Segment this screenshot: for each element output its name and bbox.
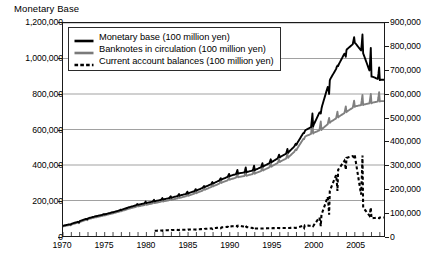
right-axis-tick-label: 200,000 — [390, 184, 421, 194]
right-axis-tickmark — [385, 118, 389, 119]
series-banknotes-in-circulation — [63, 92, 384, 226]
x-axis-tick-label: 2000 — [304, 240, 323, 250]
right-axis-tickmark — [385, 237, 389, 238]
x-axis-tick-label: 1970 — [53, 240, 72, 250]
right-axis-tick-label: 600,000 — [390, 89, 421, 99]
right-axis-tick-label: 500,000 — [390, 113, 421, 123]
right-axis-tick-label: 400,000 — [390, 136, 421, 146]
right-axis-tickmark — [385, 70, 389, 71]
right-axis-tickmark — [385, 213, 389, 214]
legend-swatch-icon — [74, 44, 94, 54]
right-axis-tick-label: 100,000 — [390, 208, 421, 218]
legend-item-label: Current account balances (100 million ye… — [99, 56, 274, 66]
legend-item: Monetary base (100 million yen) — [74, 31, 274, 43]
x-axis-tick-label: 1980 — [136, 240, 155, 250]
chart-title: Monetary Base — [14, 3, 79, 14]
x-axis-tick-label: 1985 — [178, 240, 197, 250]
right-axis-tickmark — [385, 141, 389, 142]
chart-legend: Monetary base (100 million yen)Banknotes… — [68, 27, 281, 71]
legend-swatch-icon — [74, 32, 94, 42]
right-axis-tickmark — [385, 165, 389, 166]
right-axis-tickmark — [385, 94, 389, 95]
right-axis-tickmark — [385, 22, 389, 23]
right-axis-tick-label: 900,000 — [390, 17, 421, 27]
right-axis-tick-label: 0 — [390, 232, 395, 242]
monetary-base-chart: Monetary Base 0200,000400,000600,000800,… — [0, 0, 444, 265]
right-axis-tick-label: 700,000 — [390, 65, 421, 75]
x-axis-tick-label: 1995 — [262, 240, 281, 250]
legend-item: Banknotes in circulation (100 million ye… — [74, 43, 274, 55]
x-axis-tick-label: 1975 — [94, 240, 113, 250]
right-axis-tickmark — [385, 46, 389, 47]
right-axis-tick-label: 800,000 — [390, 41, 421, 51]
legend-item: Current account balances (100 million ye… — [74, 55, 274, 67]
right-axis-tick-label: 300,000 — [390, 160, 421, 170]
x-axis-tick-label: 1990 — [220, 240, 239, 250]
right-axis-tickmark — [385, 189, 389, 190]
legend-item-label: Banknotes in circulation (100 million ye… — [99, 44, 266, 54]
legend-swatch-icon — [74, 56, 94, 66]
left-axis-tickmark — [58, 237, 62, 238]
legend-item-label: Monetary base (100 million yen) — [99, 32, 230, 42]
x-axis-tick-label: 2005 — [346, 240, 365, 250]
